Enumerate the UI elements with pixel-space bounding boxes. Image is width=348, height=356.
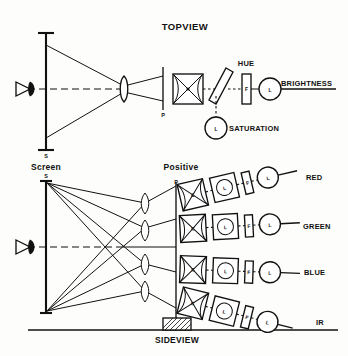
channel-lens-label-blue: L <box>224 268 227 274</box>
sideview-screen-symbol: S <box>44 173 48 179</box>
channel-filter-label-green: F <box>247 223 250 229</box>
sideview-channel-label-blue: BLUE <box>304 268 325 277</box>
channel-lens-red: L <box>209 173 239 203</box>
sideview-channel-blue: C L F L <box>180 256 301 287</box>
topview-positive-plane: P <box>161 67 165 118</box>
sideview-channel-label-ir: IR <box>316 318 324 327</box>
topview-brightness-lamp-label: L <box>268 87 271 93</box>
channel-lamp-green: L <box>259 213 281 235</box>
channel-filter-green: F <box>244 215 253 237</box>
topview-filter: F <box>242 74 251 104</box>
topview-saturation-label: SATURATION <box>229 124 279 133</box>
topview-brightness-lamp: L <box>259 78 281 100</box>
channel-cell-ir: C <box>177 287 209 319</box>
topview-saturation-lamp-label: L <box>214 126 217 132</box>
topview-group: P F HUE L BRIGHTN <box>16 21 336 159</box>
topview-positive-symbol: P <box>161 112 165 118</box>
topview-ray-bundle <box>46 45 163 138</box>
topview-brightness-label: BRIGHTNESS <box>281 79 332 88</box>
topview-lens <box>120 76 128 102</box>
sideview-channel-label-red: RED <box>306 173 323 182</box>
topview-filter-label: F <box>245 86 248 92</box>
channel-lamp-label-blue: L <box>268 270 271 276</box>
channel-lamp-label-green: L <box>268 222 271 228</box>
sideview-channel-ir: C L F L <box>177 287 296 341</box>
sideview-group: Screen S Positive P <box>16 158 338 345</box>
channel-cell-label-blue: C <box>191 267 195 273</box>
topview-hue-label: HUE <box>238 59 254 68</box>
channel-lens-blue: L <box>213 258 239 284</box>
channel-lamp-blue: L <box>259 261 281 283</box>
channel-cell-label-green: C <box>191 225 195 231</box>
optical-schematic-figure: P F HUE L BRIGHTN <box>0 0 348 356</box>
topview-saturation-lamp: L <box>205 117 227 139</box>
channel-lens-label-green: L <box>224 224 227 230</box>
channel-cell-green: C <box>179 214 206 242</box>
topview-cell <box>173 74 203 104</box>
topview-title: TOPVIEW <box>162 21 208 32</box>
sideview-title: SIDEVIEW <box>155 335 200 345</box>
topview-beamsplitter <box>209 68 233 104</box>
sideview-channel-green: C L F L <box>179 209 300 242</box>
sideview-channel-label-green: GREEN <box>303 222 331 231</box>
channel-lamp-red: L <box>255 165 280 190</box>
channel-filter-blue: F <box>245 261 254 283</box>
channel-filter-ir: F <box>240 306 253 329</box>
topview-screen-symbol: S <box>44 153 48 159</box>
channel-cell-blue: C <box>180 256 207 284</box>
sideview-screen-label: Screen <box>31 162 61 172</box>
channel-lens-ir: L <box>209 296 239 326</box>
channel-lamp-ir: L <box>255 309 280 334</box>
topview-screen <box>38 33 54 150</box>
diagram-canvas: P F HUE L BRIGHTN <box>0 0 348 356</box>
channel-filter-label-blue: F <box>247 269 250 275</box>
channel-cell-red: C <box>177 179 208 211</box>
channel-filter-red: F <box>241 171 254 194</box>
sideview-positive-label: Positive <box>164 162 199 172</box>
sideview-base-block <box>163 318 191 330</box>
channel-lens-green: L <box>212 214 238 240</box>
